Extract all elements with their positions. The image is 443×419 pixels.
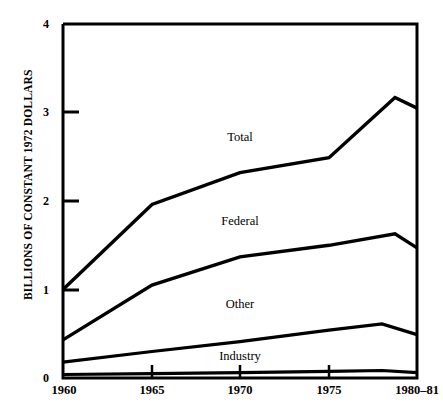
series-line-total — [63, 98, 417, 290]
y-tick-label-3: 3 — [27, 105, 49, 120]
y-axis-title: BILLIONS OF CONSTANT 1972 DOLLARS — [22, 69, 34, 300]
series-line-federal — [63, 234, 417, 340]
x-tick-label-1965: 1965 — [126, 383, 178, 398]
y-tick-label-1: 1 — [27, 283, 49, 298]
series-label-other: Other — [226, 297, 254, 312]
series-label-total: Total — [227, 130, 253, 145]
x-tick-label-1970: 1970 — [214, 383, 266, 398]
y-tick-label-2: 2 — [27, 194, 49, 209]
series-line-industry — [63, 371, 417, 375]
x-tick-label-1960: 1960 — [38, 383, 90, 398]
x-tick-label-1975: 1975 — [303, 383, 355, 398]
y-tick-label-4: 4 — [27, 17, 49, 32]
series-label-industry: Industry — [219, 349, 261, 364]
y-axis-ticks — [63, 112, 79, 290]
x-tick-label-1980-81: 1980–81 — [379, 383, 443, 398]
series-label-federal: Federal — [221, 214, 258, 229]
